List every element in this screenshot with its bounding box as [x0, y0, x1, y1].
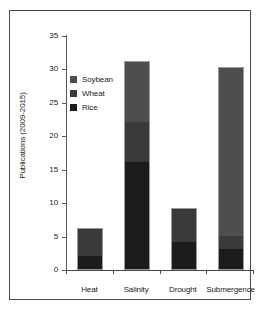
bar-segment-wheat [78, 229, 102, 256]
y-axis-tick-label: 15 [38, 165, 58, 174]
bar-segment-wheat [172, 209, 196, 242]
bar-drought [171, 208, 197, 270]
bar-segment-wheat [219, 236, 243, 249]
x-axis-tick-label: Salinity [113, 285, 160, 294]
x-axis-tick-label: Heat [66, 285, 113, 294]
figure-frame: 05101520253035 Publications (2009-2015) … [9, 10, 251, 300]
legend-label: Rice [82, 103, 98, 112]
bar-segment-rice [78, 256, 102, 269]
bar-segment-wheat [125, 122, 149, 162]
x-axis-tick-label: Drought [160, 285, 207, 294]
legend-label: Soybean [82, 75, 113, 84]
bar-segment-rice [172, 242, 196, 269]
bar-segment-soybean [219, 68, 243, 235]
y-axis-tick-label: 30 [38, 64, 58, 73]
bar-submergence [218, 67, 244, 270]
x-axis-tick [253, 270, 254, 274]
x-axis-tick [66, 270, 67, 274]
y-axis-tick-label: 0 [38, 265, 58, 274]
bar-segment-rice [219, 249, 243, 269]
legend-item: Wheat [70, 89, 113, 98]
x-axis-tick [160, 270, 161, 274]
bar-segment-soybean [125, 62, 149, 122]
legend-label: Wheat [82, 89, 105, 98]
plot-area [66, 36, 253, 270]
y-axis-tick-label: 20 [38, 131, 58, 140]
legend-item: Rice [70, 103, 113, 112]
legend-swatch-rice [70, 104, 77, 111]
legend-swatch-wheat [70, 90, 77, 97]
x-axis-tick-label: Submergence [206, 285, 253, 294]
bar-segment-rice [125, 162, 149, 269]
x-axis-tick [113, 270, 114, 274]
y-axis-tick-label: 35 [38, 31, 58, 40]
figure-canvas: 05101520253035 Publications (2009-2015) … [0, 0, 260, 310]
legend-item: Soybean [70, 75, 113, 84]
x-axis-tick [206, 270, 207, 274]
bar-heat [77, 228, 103, 270]
y-axis-tick-label: 25 [38, 98, 58, 107]
chart-legend: SoybeanWheatRice [70, 75, 113, 112]
y-axis-tick-label: 5 [38, 232, 58, 241]
bar-salinity [124, 61, 150, 270]
y-axis-title: Publications (2009-2015) [18, 46, 27, 226]
legend-swatch-soybean [70, 76, 77, 83]
y-axis-tick-label: 10 [38, 198, 58, 207]
